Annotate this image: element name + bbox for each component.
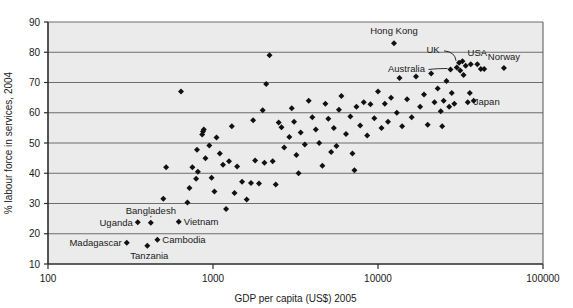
x-axis-title: GDP per capita (US$) 2005 [234,293,357,304]
y-tick-label-70: 70 [29,77,41,88]
scatter-chart-figure: 102030405060708090 100100010000100000 Ma… [0,0,573,308]
y-tick-label-50: 50 [29,138,41,149]
y-tick-label-10: 10 [29,259,41,270]
point-label-australia: Australia [388,63,426,74]
x-tick-label-100000: 100000 [526,273,560,284]
x-tick-label-10000: 10000 [364,273,392,284]
y-tick-label-30: 30 [29,198,41,209]
point-label-norway: Norway [488,51,520,62]
y-tick-label-90: 90 [29,17,41,28]
point-label-cambodia: Cambodia [162,234,206,245]
point-label-hong-kong: Hong Kong [370,25,418,36]
x-tick-label-100: 100 [40,273,57,284]
point-label-uk: UK [426,44,440,55]
point-label-tanzania: Tanzania [130,250,169,261]
y-tick-label-60: 60 [29,107,41,118]
x-tick-label-1000: 1000 [202,273,225,284]
point-label-japan: Japan [474,96,500,107]
point-label-vietnam: Vietnam [184,216,219,227]
y-tick-label-40: 40 [29,168,41,179]
chart-canvas: 102030405060708090 100100010000100000 Ma… [0,0,573,308]
y-tick-label-80: 80 [29,47,41,58]
y-tick-label-20: 20 [29,228,41,239]
point-label-bangladesh: Bangladesh [126,205,176,216]
point-label-madagascar: Madagascar [69,237,121,248]
y-axis-title: % labour force in services, 2004 [3,71,14,214]
point-label-uganda: Uganda [99,217,133,228]
point-label-usa: USA [468,47,488,58]
